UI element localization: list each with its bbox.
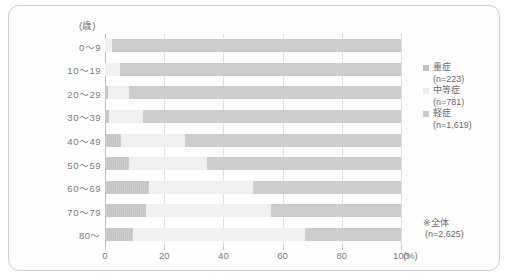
bar-segment-中等症 bbox=[109, 110, 143, 123]
bar-segment-中等症 bbox=[121, 134, 185, 147]
bar-segment-重症 bbox=[105, 181, 149, 194]
bar-row bbox=[105, 110, 401, 123]
bar-segment-軽症 bbox=[305, 228, 401, 241]
y-axis-tick-label: 0〜9 bbox=[13, 40, 101, 54]
x-axis-tick-label: 40 bbox=[218, 250, 229, 261]
y-axis-tick-label: 40〜49 bbox=[13, 134, 101, 148]
x-axis-tick-label: 20 bbox=[159, 250, 170, 261]
gridline-100 bbox=[401, 34, 402, 246]
bar-row bbox=[105, 39, 401, 52]
bar-segment-軽症 bbox=[253, 181, 401, 194]
legend-label: 重症 bbox=[433, 62, 451, 73]
bar-segment-中等症 bbox=[108, 86, 129, 99]
y-axis-unit-label: (歳) bbox=[79, 18, 95, 32]
bar-row bbox=[105, 134, 401, 147]
bar-segment-軽症 bbox=[120, 63, 401, 76]
bar-row bbox=[105, 181, 401, 194]
bar-row bbox=[105, 228, 401, 241]
legend-label: 軽症 bbox=[433, 108, 451, 119]
bar-row bbox=[105, 204, 401, 217]
bar-segment-重症 bbox=[105, 204, 146, 217]
x-axis-tick-label: 80 bbox=[337, 250, 348, 261]
y-axis-tick-label: 30〜39 bbox=[13, 110, 101, 124]
y-axis-tick-label: 10〜19 bbox=[13, 63, 101, 77]
y-axis-tick-label: 70〜79 bbox=[13, 205, 101, 219]
legend-count: (n=781) bbox=[433, 97, 503, 108]
plot-area bbox=[105, 34, 401, 246]
x-axis-tick-label: 0 bbox=[102, 250, 107, 261]
legend: 重症(n=223)中等症(n=781)軽症(n=1,619) bbox=[423, 62, 503, 131]
legend-swatch-icon bbox=[423, 65, 429, 71]
bar-segment-軽症 bbox=[185, 134, 401, 147]
footnote: ※全体 (n=2,625) bbox=[423, 218, 464, 240]
bar-segment-中等症 bbox=[105, 39, 112, 52]
bar-segment-中等症 bbox=[105, 63, 120, 76]
bar-segment-重症 bbox=[105, 228, 133, 241]
legend-swatch-icon bbox=[423, 88, 429, 94]
legend-item: 中等症 bbox=[423, 85, 503, 96]
legend-item: 重症 bbox=[423, 62, 503, 73]
x-axis-tick-label: 60 bbox=[277, 250, 288, 261]
y-axis-tick-label: 20〜29 bbox=[13, 87, 101, 101]
y-axis-labels: 0〜910〜1920〜2930〜3940〜4950〜5960〜6970〜7980… bbox=[9, 34, 101, 246]
bar-segment-中等症 bbox=[149, 181, 253, 194]
legend-count: (n=223) bbox=[433, 74, 503, 85]
footnote-line-2: (n=2,625) bbox=[425, 229, 464, 240]
bar-row bbox=[105, 157, 401, 170]
legend-item: 軽症 bbox=[423, 108, 503, 119]
legend-swatch-icon bbox=[423, 111, 429, 117]
bar-row bbox=[105, 86, 401, 99]
bar-segment-軽症 bbox=[207, 157, 401, 170]
y-axis-tick-label: 50〜59 bbox=[13, 158, 101, 172]
x-axis-unit-label: (%) bbox=[403, 250, 418, 261]
chart-frame: (歳) 0〜910〜1920〜2930〜3940〜4950〜5960〜6970〜… bbox=[8, 5, 500, 271]
bar-segment-重症 bbox=[105, 134, 121, 147]
bar-segment-軽症 bbox=[143, 110, 401, 123]
bar-row bbox=[105, 63, 401, 76]
legend-label: 中等症 bbox=[433, 85, 460, 96]
bar-segment-中等症 bbox=[146, 204, 270, 217]
bar-segment-軽症 bbox=[112, 39, 401, 52]
footnote-line-1: ※全体 bbox=[423, 218, 464, 229]
bar-segment-中等症 bbox=[129, 157, 207, 170]
bar-segment-軽症 bbox=[129, 86, 401, 99]
legend-count: (n=1,619) bbox=[433, 120, 503, 131]
y-axis-tick-label: 60〜69 bbox=[13, 181, 101, 195]
x-axis: 020406080100 bbox=[105, 246, 401, 266]
y-axis-tick-label: 80〜 bbox=[13, 228, 101, 242]
bar-segment-重症 bbox=[105, 157, 129, 170]
bar-segment-軽症 bbox=[271, 204, 401, 217]
bar-segment-中等症 bbox=[133, 228, 305, 241]
